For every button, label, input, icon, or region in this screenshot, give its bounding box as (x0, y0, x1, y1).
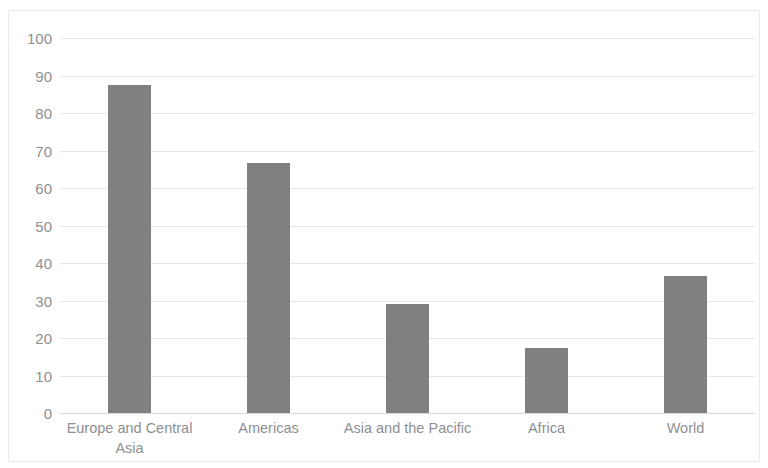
gridline (60, 113, 755, 114)
gridline (60, 301, 755, 302)
y-axis-tick-label: 10 (8, 368, 52, 383)
bar (108, 85, 151, 413)
y-axis-tick-label: 40 (8, 256, 52, 271)
y-axis: 0102030405060708090100 (0, 38, 52, 413)
bar-chart-figure: 0102030405060708090100 Europe and Centra… (0, 0, 768, 468)
axis-baseline (60, 413, 755, 414)
y-axis-tick-label: 30 (8, 293, 52, 308)
gridline (60, 188, 755, 189)
gridline (60, 151, 755, 152)
y-axis-tick-label: 90 (8, 68, 52, 83)
plot-area (60, 38, 755, 413)
x-axis-tick-label: Asia and the Pacific (340, 418, 475, 438)
x-axis-tick-label: Africa (479, 418, 614, 438)
gridline (60, 38, 755, 39)
y-axis-tick-label: 70 (8, 143, 52, 158)
y-axis-tick-label: 80 (8, 106, 52, 121)
x-axis: Europe and Central AsiaAmericasAsia and … (60, 418, 755, 464)
x-axis-tick-label: World (618, 418, 753, 438)
bar (247, 163, 290, 414)
gridline (60, 76, 755, 77)
gridline (60, 226, 755, 227)
gridline (60, 263, 755, 264)
y-axis-tick-label: 20 (8, 331, 52, 346)
y-axis-tick-label: 100 (8, 31, 52, 46)
bar (664, 276, 707, 413)
y-axis-tick-label: 0 (8, 406, 52, 421)
x-axis-tick-label: Americas (201, 418, 336, 438)
y-axis-tick-label: 50 (8, 218, 52, 233)
x-axis-tick-label: Europe and Central Asia (62, 418, 197, 458)
bar (386, 304, 429, 413)
y-axis-tick-label: 60 (8, 181, 52, 196)
bar (525, 348, 568, 413)
